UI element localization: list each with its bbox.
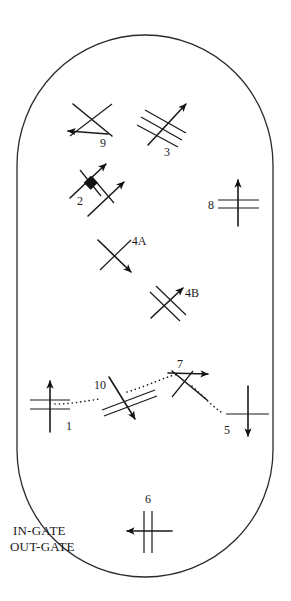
track-layout-diagram: 9 3 2 8 4A bbox=[0, 0, 291, 601]
symbol-4A-crossbar bbox=[100, 240, 131, 270]
symbol-3-rail-1 bbox=[145, 110, 186, 133]
symbol-1-label: 1 bbox=[66, 419, 72, 433]
symbol-10-label: 10 bbox=[94, 378, 106, 392]
symbol-1[interactable]: 1 bbox=[30, 381, 72, 433]
connection-segment-10-to-7 bbox=[127, 374, 178, 392]
symbol-6-label: 6 bbox=[145, 492, 151, 506]
symbol-4B[interactable]: 4B bbox=[150, 286, 199, 321]
symbol-8-label: 8 bbox=[208, 198, 214, 212]
symbol-4B-rail-1 bbox=[150, 292, 180, 321]
symbol-3-rail-2 bbox=[141, 117, 182, 140]
symbol-8[interactable]: 8 bbox=[208, 180, 259, 226]
symbol-10[interactable]: 10 bbox=[94, 377, 157, 419]
symbol-7[interactable]: 7 bbox=[168, 357, 208, 400]
symbol-4A-label: 4A bbox=[132, 234, 147, 248]
symbol-7-label: 7 bbox=[177, 357, 183, 371]
out-gate-label: OUT-GATE bbox=[10, 539, 75, 554]
symbol-9[interactable]: 9 bbox=[68, 104, 112, 150]
symbol-4A[interactable]: 4A bbox=[98, 234, 147, 272]
symbol-3[interactable]: 3 bbox=[137, 104, 186, 159]
diagram-canvas: 9 3 2 8 4A bbox=[0, 0, 291, 601]
symbol-2-label: 2 bbox=[77, 194, 83, 208]
symbol-2[interactable]: 2 bbox=[70, 164, 124, 216]
in-gate-label: IN-GATE bbox=[13, 523, 66, 538]
symbol-5-label: 5 bbox=[224, 423, 230, 437]
symbol-5[interactable]: 5 bbox=[224, 386, 269, 437]
symbol-4B-arrow bbox=[151, 288, 183, 318]
symbol-6[interactable]: 6 bbox=[127, 492, 172, 553]
symbol-9-label: 9 bbox=[100, 136, 106, 150]
symbol-3-label: 3 bbox=[164, 145, 170, 159]
connection-segment-7-to-5 bbox=[192, 386, 224, 414]
gate-label-group: IN-GATE OUT-GATE bbox=[10, 523, 75, 554]
symbol-3-rail-3 bbox=[137, 125, 178, 147]
symbol-4B-label: 4B bbox=[185, 286, 199, 300]
